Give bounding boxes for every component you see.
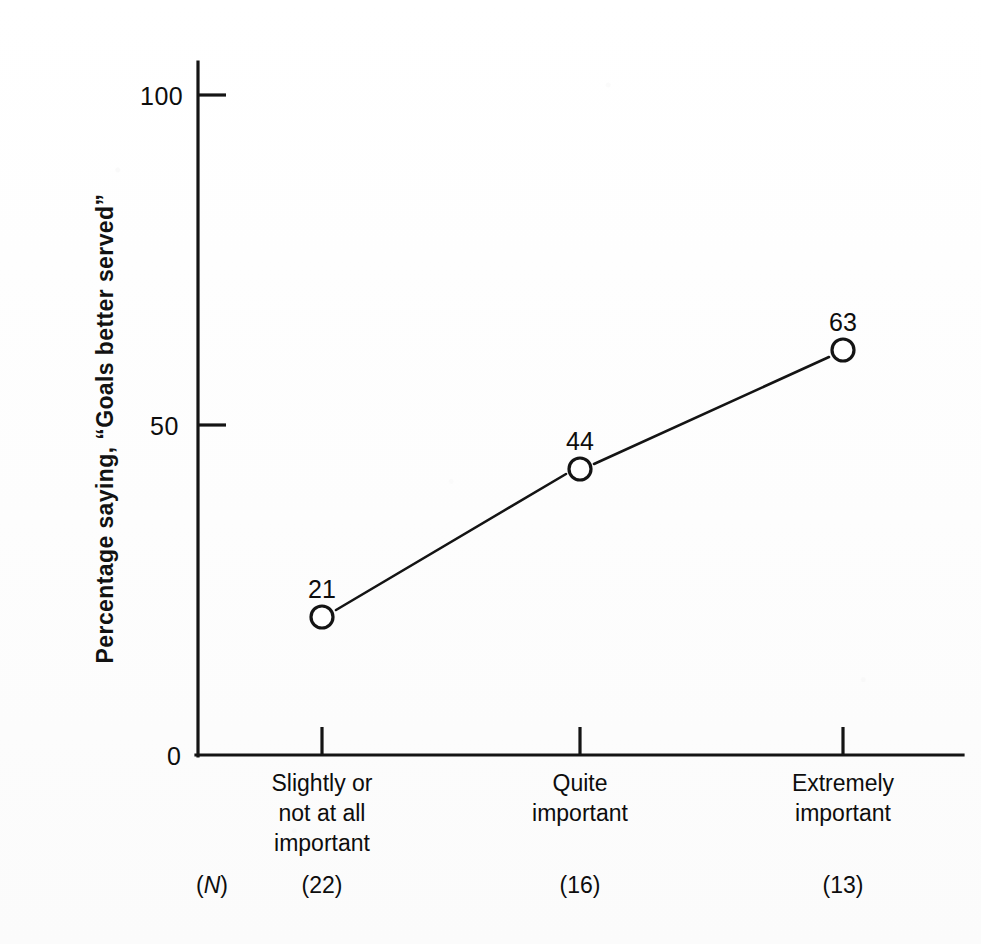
n-row-header-symbol: N [204,872,221,898]
x-category-label-2-line-1: Quite [460,768,700,798]
y-tick-label-50: 50 [150,412,179,441]
x-category-label-2: Quite important [460,768,700,828]
n-value-2: (16) [520,872,640,899]
x-category-label-3-line-1: Extremely [723,768,963,798]
data-point-marker-1 [311,606,333,628]
data-point-label-2: 44 [540,427,620,456]
data-point-label-3: 63 [803,308,883,337]
x-category-label-1-line-3: important [202,828,442,858]
n-value-1: (22) [262,872,382,899]
x-category-label-1: Slightly or not at all important [202,768,442,858]
y-axis-title: Percentage saying, “Goals better served” [92,149,119,709]
x-category-label-3-line-2: important [723,798,963,828]
y-tick-label-0: 0 [167,742,181,771]
n-row-header: (N) [196,872,228,899]
x-category-label-2-line-2: important [460,798,700,828]
figure-canvas: 100 50 0 Percentage saying, “Goals bette… [0,0,981,944]
n-row-header-open: ( [196,872,204,898]
n-row-header-close: ) [220,872,228,898]
series-segment-1 [336,474,566,610]
data-point-marker-3 [832,339,854,361]
series-segment-2 [594,357,829,464]
n-value-3: (13) [783,872,903,899]
x-category-label-3: Extremely important [723,768,963,828]
x-category-label-1-line-2: not at all [202,798,442,828]
data-point-marker-2 [569,458,591,480]
data-point-label-1: 21 [282,575,362,604]
y-tick-label-100: 100 [140,82,183,111]
x-category-label-1-line-1: Slightly or [202,768,442,798]
